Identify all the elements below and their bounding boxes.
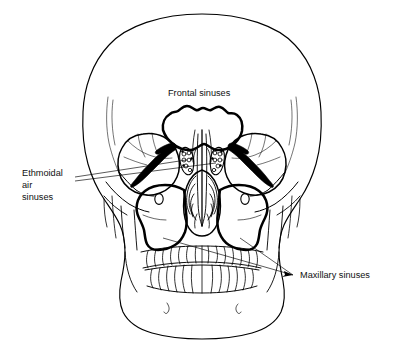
label-maxillary-sinuses-text: Maxillary sinuses (300, 270, 370, 280)
label-frontal-sinuses: Frontal sinuses (168, 88, 231, 98)
label-ethmoidal-line-2: air (22, 180, 32, 190)
label-maxillary-sinuses: Maxillary sinuses (300, 270, 370, 280)
label-ethmoidal-line-1: Ethmoidal (22, 168, 63, 178)
label-ethmoidal-line-3: sinuses (22, 192, 54, 202)
label-frontal-sinuses-text: Frontal sinuses (168, 88, 231, 98)
skull-sinus-diagram: Frontal sinuses Ethmoidal air sinuses Ma… (0, 0, 404, 354)
